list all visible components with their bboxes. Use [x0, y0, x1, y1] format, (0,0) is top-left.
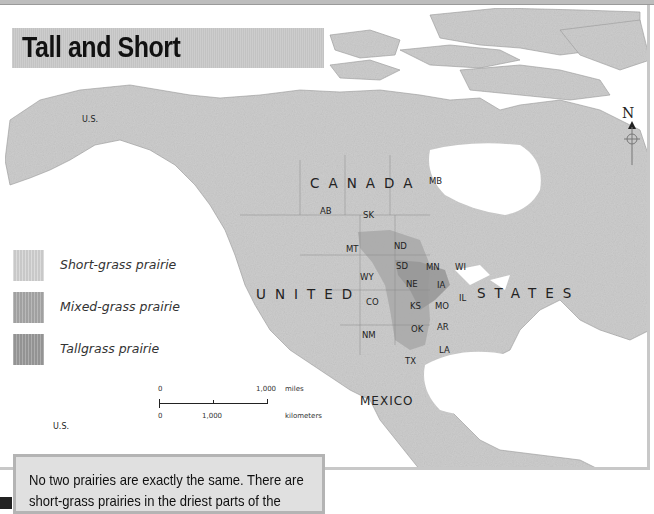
legend-item-tallgrass: Tallgrass prairie [13, 334, 233, 366]
short-grass-swatch [13, 250, 44, 281]
label-il: IL [459, 293, 466, 303]
label-mt: MT [346, 244, 359, 254]
page-corner-mark [0, 497, 12, 509]
scale-km-unit: kilometers [285, 412, 322, 420]
label-mexico: MEXICO [360, 394, 414, 408]
label-nd: ND [394, 241, 407, 251]
label-sk: SK [363, 210, 374, 220]
map-frame: Tall and Short U.S. U.S. CANADA UNITED S… [0, 5, 650, 470]
scale-tick-start [159, 399, 160, 408]
legend-item-short-grass: Short-grass prairie [13, 250, 233, 282]
label-mn: MN [426, 262, 440, 272]
label-co: CO [366, 297, 379, 307]
label-canada: CANADA [310, 175, 421, 191]
scale-miles-unit: miles [285, 385, 304, 393]
legend-item-mixed-grass: Mixed-grass prairie [13, 292, 233, 324]
label-ok: OK [411, 324, 423, 334]
scale-miles-start: 0 [158, 385, 162, 393]
scale-km-mid: 1,000 [202, 412, 222, 420]
scale-bar: 0 1,000 miles 0 1,000 kilometers [155, 385, 355, 425]
scale-km-start: 0 [158, 412, 162, 420]
caption-line-1: No two prairies are exactly the same. Th… [29, 470, 317, 491]
scale-tick-end [267, 399, 268, 404]
page-title: Tall and Short [22, 31, 180, 64]
label-nm: NM [362, 330, 376, 340]
label-ar: AR [437, 322, 449, 332]
caption-text-box: No two prairies are exactly the same. Th… [13, 454, 325, 514]
label-wy: WY [360, 272, 374, 282]
legend-label: Mixed-grass prairie [60, 299, 180, 314]
label-ab: AB [320, 206, 332, 216]
label-ne: NE [406, 279, 418, 289]
label-alaska-us: U.S. [82, 115, 98, 124]
caption-line-2: short-grass prairies in the driest parts… [29, 491, 317, 512]
legend-label: Short-grass prairie [60, 257, 176, 272]
north-label: N [622, 105, 634, 121]
label-la: LA [439, 345, 450, 355]
label-states: STATES [477, 285, 580, 301]
label-tx: TX [405, 356, 416, 366]
label-mb: MB [429, 176, 442, 186]
label-hawaii-us: U.S. [53, 422, 69, 431]
label-ia: IA [437, 280, 445, 290]
label-wi: WI [455, 262, 466, 272]
label-mo: MO [435, 301, 449, 311]
tallgrass-swatch [13, 334, 44, 365]
compass-rose: N [620, 105, 644, 165]
mixed-grass-swatch [13, 292, 44, 323]
north-arrow-icon [620, 121, 644, 165]
label-united: UNITED [256, 286, 361, 302]
scale-tick-mid [213, 400, 214, 404]
label-ks: KS [410, 301, 421, 311]
title-bar: Tall and Short [12, 28, 324, 68]
caption-text: No two prairies are exactly the same. Th… [29, 470, 317, 512]
label-sd: SD [396, 261, 408, 271]
legend-label: Tallgrass prairie [60, 341, 159, 356]
scale-miles-end: 1,000 [256, 385, 276, 393]
